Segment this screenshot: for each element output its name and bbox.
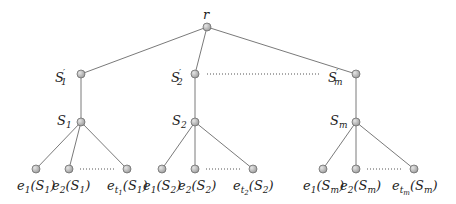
edge-s2-leaf3 bbox=[195, 122, 253, 169]
leaf-labels: e1(S1) e2(S1) et1(S1) e1(S2) e2(S2) et2(… bbox=[17, 178, 438, 197]
node-leaf bbox=[249, 165, 257, 173]
leaf-label-e1-s1: e1(S1) bbox=[17, 178, 55, 195]
root-edges bbox=[81, 27, 356, 74]
node-s1prime bbox=[77, 70, 85, 78]
node-leaf bbox=[32, 165, 40, 173]
edge-s1-leaf3 bbox=[81, 122, 127, 169]
label-s1: S1 bbox=[57, 113, 72, 130]
leaf-label-et1-s1: et1(S1) bbox=[107, 178, 148, 197]
leaf-label-e2-s2: e2(S2) bbox=[178, 178, 216, 195]
edge-sm-leaf3 bbox=[356, 122, 414, 169]
edge-s2-leaf1 bbox=[162, 122, 195, 169]
leaf-label-e2-sm: e2(Sm) bbox=[340, 178, 381, 195]
label-s2prime: S′2 bbox=[171, 68, 183, 87]
leaf-edges bbox=[36, 122, 414, 169]
leaf-label-e1-s2: e1(S2) bbox=[143, 178, 181, 195]
prime-to-set-edges bbox=[81, 74, 356, 122]
label-root: r bbox=[203, 7, 210, 22]
leaf-label-et2-s2: et2(S2) bbox=[233, 178, 274, 197]
nodes bbox=[32, 23, 418, 173]
leaf-label-etm-sm: etm(Sm) bbox=[392, 178, 438, 197]
node-labels: r S′1 S1 S′2 S2 S′m Sm bbox=[55, 7, 347, 130]
node-leaf bbox=[123, 165, 131, 173]
leaf-label-e2-s1: e2(S1) bbox=[52, 178, 90, 195]
leaf-label-e1-sm: e1(Sm) bbox=[303, 178, 344, 195]
node-root bbox=[203, 23, 211, 31]
edge-s1-leaf1 bbox=[36, 122, 81, 169]
node-sm bbox=[352, 118, 360, 126]
node-leaf bbox=[352, 165, 360, 173]
edge-root-s1prime bbox=[81, 27, 207, 74]
edge-root-s2prime bbox=[195, 27, 207, 74]
node-leaf bbox=[65, 165, 73, 173]
node-leaf bbox=[410, 165, 418, 173]
label-s2: S2 bbox=[172, 113, 187, 130]
node-leaf bbox=[158, 165, 166, 173]
node-leaf bbox=[319, 165, 327, 173]
node-smprime bbox=[352, 70, 360, 78]
label-sm: Sm bbox=[330, 113, 347, 130]
edge-root-smprime bbox=[207, 27, 356, 74]
node-s2 bbox=[191, 118, 199, 126]
node-leaf bbox=[191, 165, 199, 173]
node-s2prime bbox=[191, 70, 199, 78]
node-s1 bbox=[77, 118, 85, 126]
label-s1prime: S′1 bbox=[55, 68, 67, 87]
tree-diagram: r S′1 S1 S′2 S2 S′m Sm e1(S1) e2(S1) et1… bbox=[0, 0, 456, 204]
label-smprime: S′m bbox=[328, 68, 343, 87]
